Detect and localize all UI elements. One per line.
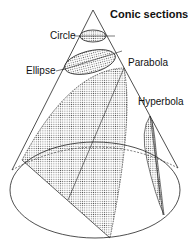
- label-ellipse: Ellipse: [26, 66, 55, 76]
- label-circle: Circle: [50, 31, 76, 41]
- label-hyperbola: Hyperbola: [138, 97, 184, 107]
- diagram-title: Conic sections: [110, 9, 188, 20]
- parabola-section: [22, 68, 127, 238]
- conic-diagram: [0, 0, 188, 244]
- label-parabola: Parabola: [128, 58, 168, 68]
